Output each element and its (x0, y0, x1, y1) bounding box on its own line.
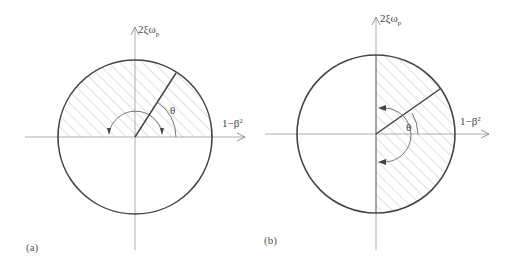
panel-a: 2ξωp 1−β2 θ (a) (25, 23, 245, 254)
y-axis-label: 2ξωp (380, 12, 402, 27)
panel-label-b: (b) (264, 234, 277, 247)
theta-label: θ (170, 104, 175, 116)
x-axis-label: 1−β2 (460, 115, 481, 127)
panel-label-a: (a) (26, 241, 39, 254)
x-axis-label: 1−β2 (222, 117, 243, 129)
y-axis-label: 2ξωp (138, 23, 160, 38)
theta-label: θ (406, 121, 411, 133)
panel-b: 2ξωp 1−β2 θ (b) (264, 12, 489, 250)
figure-canvas: 2ξωp 1−β2 θ (a) 2ξωp 1−β2 θ (b) (0, 0, 513, 266)
